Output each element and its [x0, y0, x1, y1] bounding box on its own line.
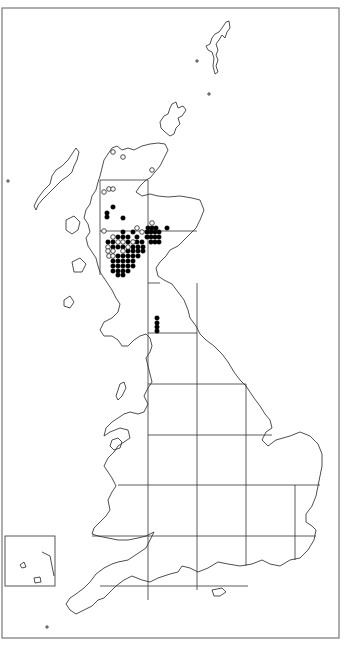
- record-dot-filled: [131, 264, 136, 269]
- record-dot-open: [111, 187, 116, 192]
- record-dot-open: [111, 235, 116, 240]
- record-dot-open: [126, 245, 131, 250]
- record-dot-filled: [116, 259, 121, 264]
- record-dot-filled: [126, 264, 131, 269]
- record-dot-filled: [121, 273, 126, 278]
- record-dot-open: [106, 249, 111, 254]
- guernsey-outline: [20, 562, 26, 568]
- record-dot-filled: [116, 245, 121, 250]
- record-dot-filled: [155, 329, 160, 334]
- record-dot-filled: [135, 235, 140, 240]
- record-dot-filled: [105, 215, 110, 220]
- distribution-map: [0, 0, 349, 646]
- record-dot-filled: [121, 264, 126, 269]
- record-dot-filled: [121, 259, 126, 264]
- isle-of-wight-outline: [212, 588, 226, 596]
- skye-outline: [66, 216, 80, 234]
- record-dot-filled: [111, 269, 116, 274]
- outer-hebrides-outline: [34, 148, 79, 210]
- record-dot-filled: [111, 205, 116, 210]
- record-dot-filled: [126, 240, 131, 245]
- st-kilda-islet: [7, 180, 9, 182]
- record-dot-filled: [121, 254, 126, 259]
- record-dot-filled: [131, 259, 136, 264]
- record-dot-filled: [165, 226, 170, 231]
- record-dot-filled: [121, 235, 126, 240]
- record-dot-filled: [116, 254, 121, 259]
- fair-isle: [196, 60, 198, 62]
- record-dot-filled: [106, 240, 111, 245]
- record-dot-open: [102, 190, 107, 195]
- record-dot-open: [111, 150, 116, 155]
- record-dot-filled: [141, 249, 146, 254]
- record-dot-filled: [126, 254, 131, 259]
- record-dot-filled: [157, 235, 162, 240]
- record-dot-filled: [111, 264, 116, 269]
- record-dot-filled: [157, 230, 162, 235]
- record-dot-filled: [155, 316, 160, 321]
- great-britain-outline: [66, 143, 322, 614]
- record-dot-filled: [126, 269, 131, 274]
- record-dot-filled: [140, 240, 145, 245]
- isle-of-man-outline: [116, 382, 126, 400]
- record-dot-filled: [126, 259, 131, 264]
- record-dot-open: [116, 240, 121, 245]
- channel-islands-inset: [5, 536, 55, 586]
- record-dots: [102, 150, 170, 334]
- record-dot-filled: [121, 216, 126, 221]
- record-dot-open: [121, 249, 126, 254]
- mull-outline: [72, 258, 86, 272]
- channel-islands: [20, 552, 54, 583]
- record-dot-open: [102, 229, 107, 234]
- record-dot-filled: [126, 235, 131, 240]
- record-dot-open: [121, 240, 126, 245]
- record-dot-filled: [131, 254, 136, 259]
- record-dot-open: [140, 230, 145, 235]
- record-dot-open: [150, 168, 155, 173]
- scilly-islets: [46, 626, 48, 628]
- record-dot-open: [111, 249, 116, 254]
- record-dot-open: [111, 254, 116, 259]
- jersey-outline: [34, 577, 41, 583]
- record-dot-open: [150, 221, 155, 226]
- record-dot-open: [135, 226, 140, 231]
- orkney-outline: [160, 102, 186, 136]
- france-coast-inset: [42, 552, 54, 576]
- record-dot-filled: [111, 240, 116, 245]
- record-dot-filled: [131, 249, 136, 254]
- map-canvas: [0, 0, 349, 646]
- record-dot-filled: [116, 264, 121, 269]
- record-dot-filled: [111, 259, 116, 264]
- islet: [208, 93, 210, 95]
- record-dot-filled: [136, 254, 141, 259]
- shetland-outline: [206, 21, 230, 74]
- record-dot-filled: [131, 230, 136, 235]
- record-dot-filled: [136, 249, 141, 254]
- record-dot-filled: [116, 235, 121, 240]
- islay-outline: [64, 296, 74, 308]
- record-dot-open: [121, 155, 126, 160]
- map-frame: [2, 8, 339, 638]
- record-dot-open: [131, 240, 136, 245]
- record-dot-filled: [116, 273, 121, 278]
- anglesey-outline: [110, 438, 122, 450]
- record-dot-filled: [157, 240, 162, 245]
- coastline: [7, 21, 322, 628]
- record-dot-filled: [121, 230, 126, 235]
